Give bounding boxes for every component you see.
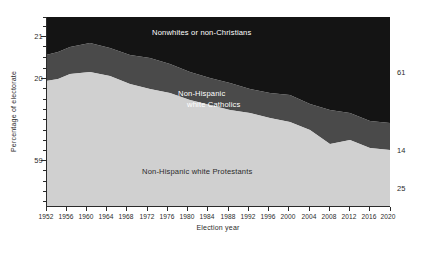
y-tick-minor	[43, 99, 47, 100]
x-tick-label-1960: 1960	[78, 213, 93, 220]
x-tick	[288, 207, 289, 211]
x-tick	[167, 207, 168, 211]
x-tick-label-1968: 1968	[118, 213, 133, 220]
x-tick-label-2016: 2016	[361, 213, 376, 220]
x-tick-label-1952: 1952	[38, 213, 53, 220]
y-tick-minor	[43, 109, 47, 110]
x-tick	[86, 207, 87, 211]
x-tick	[228, 207, 229, 211]
x-tick-label-1984: 1984	[199, 213, 214, 220]
end-value-label-nonwhites: 61	[397, 68, 406, 77]
chart-figure: Nonwhites or non-Christians Non-Hispanic…	[0, 0, 430, 256]
x-tick	[369, 207, 370, 211]
x-tick	[390, 207, 391, 211]
x-axis-title: Election year	[46, 224, 390, 231]
x-tick-label-2008: 2008	[321, 213, 336, 220]
x-tick-label-1956: 1956	[58, 213, 73, 220]
y-tick-minor	[43, 150, 47, 151]
x-tick-label-2000: 2000	[280, 213, 295, 220]
x-tick-label-2004: 2004	[301, 213, 316, 220]
x-tick	[207, 207, 208, 211]
end-value-label-protestants: 25	[397, 184, 406, 193]
x-tick	[309, 207, 310, 211]
y-tick-minor	[43, 140, 47, 141]
y-tick-minor	[43, 170, 47, 171]
series-label-non-hispanic-white-protestants: Non-Hispanic white Protestants	[142, 166, 252, 177]
y-tick-label-59: 59	[34, 156, 43, 165]
x-axis: 1952 1956 1960 1964 1968 1972 1976 1980 …	[46, 206, 390, 207]
x-tick	[268, 207, 269, 211]
plot-area	[46, 17, 390, 206]
x-tick	[66, 207, 67, 211]
y-tick-minor	[43, 68, 47, 69]
series-label-nonwhites-or-non-christians: Nonwhites or non-Christians	[152, 27, 251, 38]
x-tick-label-1992: 1992	[240, 213, 255, 220]
x-tick-label-1964: 1964	[98, 213, 113, 220]
x-tick	[126, 207, 127, 211]
x-tick-label-2020: 2020	[380, 213, 395, 220]
x-tick	[106, 207, 107, 211]
y-axis-title-text: Percentage of electorate	[11, 71, 18, 152]
y-tick-minor	[43, 191, 47, 192]
x-tick-label-1976: 1976	[159, 213, 174, 220]
x-tick	[46, 207, 47, 211]
y-axis: 21 20 59	[46, 17, 47, 206]
y-tick-minor	[43, 119, 47, 120]
y-tick-minor	[43, 46, 47, 47]
y-tick-minor	[43, 181, 47, 182]
series-label-line-1: Non-Hispanic	[178, 89, 225, 98]
y-tick-minor	[43, 201, 47, 202]
y-axis-title: Percentage of electorate	[8, 17, 20, 206]
y-tick-minor	[43, 88, 47, 89]
y-tick-minor	[43, 130, 47, 131]
x-tick	[248, 207, 249, 211]
series-label-non-hispanic-white-catholics: Non-Hispanic white Catholics	[178, 88, 240, 110]
series-label-line-2: white Catholics	[178, 100, 240, 109]
end-value-label-catholics: 14	[397, 146, 406, 155]
x-tick	[349, 207, 350, 211]
y-tick-label-20: 20	[34, 74, 43, 83]
y-tick-label-21: 21	[34, 32, 43, 41]
x-tick-label-1996: 1996	[260, 213, 275, 220]
y-tick-minor	[43, 57, 47, 58]
x-tick-label-1980: 1980	[179, 213, 194, 220]
stacked-area-svg	[46, 17, 390, 206]
x-tick-label-1988: 1988	[220, 213, 235, 220]
y-tick-minor	[43, 17, 47, 18]
y-tick-minor	[43, 26, 47, 27]
x-tick	[147, 207, 148, 211]
x-tick-label-1972: 1972	[139, 213, 154, 220]
x-tick	[187, 207, 188, 211]
x-tick-label-2012: 2012	[341, 213, 356, 220]
x-tick	[329, 207, 330, 211]
